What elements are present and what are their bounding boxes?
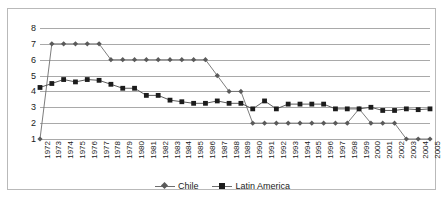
data-point-square [333,106,338,111]
x-tick-label: 1979 [126,141,134,159]
x-axis-labels: 1972197319741975197619771978197919801981… [40,141,430,177]
data-point-square [416,107,421,112]
data-point-square [97,78,102,83]
data-point-square [357,106,362,111]
x-tick-label: 2002 [398,141,406,159]
data-point-diamond [297,121,302,126]
data-point-diamond [85,41,90,46]
data-point-diamond [309,121,314,126]
data-point-diamond [262,121,267,126]
data-point-square [369,105,374,110]
data-point-diamond [49,41,54,46]
y-tick-label: 1 [31,135,36,144]
x-tick-label: 1981 [150,141,158,159]
data-point-diamond [156,57,161,62]
x-tick-label: 1984 [185,141,193,159]
data-point-square [168,98,173,103]
x-tick-label: 1991 [268,141,276,159]
legend-line-chile [155,182,175,191]
x-tick-label: 1974 [67,141,75,159]
data-point-square [73,80,78,85]
chart-figure: 12345678 1972197319741975197619771978197… [0,0,447,200]
y-tick-label: 4 [31,87,36,96]
legend-label-latin-america: Latin America [235,182,290,191]
legend-line-latin-america [212,182,232,191]
x-tick-label: 1980 [138,141,146,159]
y-tick-label: 7 [31,39,36,48]
chart-frame: 12345678 1972197319741975197619771978197… [7,8,436,190]
x-tick-label: 1987 [221,141,229,159]
data-point-square [286,102,291,107]
data-point-square [132,86,137,91]
y-tick-label: 8 [31,24,36,33]
data-point-square [392,108,397,113]
data-point-diamond [167,57,172,62]
x-tick-label: 1986 [209,141,217,159]
x-tick-label: 1998 [351,141,359,159]
data-point-diamond [333,121,338,126]
x-tick-label: 1990 [256,141,264,159]
x-tick-label: 2004 [422,141,430,159]
data-point-square [345,106,350,111]
x-tick-label: 1999 [363,141,371,159]
data-point-diamond [380,121,385,126]
x-tick-label: 1989 [244,141,252,159]
data-point-square [262,99,267,104]
x-tick-label: 1993 [292,141,300,159]
x-tick-label: 1983 [174,141,182,159]
data-point-square [321,102,326,107]
x-tick-label: 1975 [79,141,87,159]
data-point-square [380,108,385,113]
y-tick-label: 2 [31,119,36,128]
x-tick-label: 2003 [410,141,418,159]
legend-item-chile: Chile [155,182,199,191]
data-point-square [428,106,433,111]
data-point-diamond [132,57,137,62]
series-layer [40,28,430,139]
data-point-diamond [61,41,66,46]
data-point-square [404,106,409,111]
data-point-square [298,102,303,107]
data-point-square [239,101,244,106]
x-tick-label: 1973 [55,141,63,159]
data-point-square [191,101,196,106]
data-point-square [227,101,232,106]
x-tick-label: 1982 [162,141,170,159]
data-point-square [215,99,220,104]
x-tick-label: 1994 [304,141,312,159]
legend-item-latin-america: Latin America [212,182,290,191]
x-tick-label: 1972 [44,141,52,159]
data-point-square [49,81,54,86]
data-point-square [109,82,114,87]
data-point-square [309,102,314,107]
x-tick-label: 1985 [197,141,205,159]
data-point-diamond [191,57,196,62]
x-tick-label: 1992 [280,141,288,159]
data-point-square [203,101,208,106]
x-tick-label: 2005 [434,141,442,159]
data-point-square [144,93,149,98]
x-tick-label: 1978 [114,141,122,159]
data-point-square [156,93,161,98]
data-point-square [38,85,43,90]
data-point-diamond [179,57,184,62]
data-point-diamond [274,121,279,126]
data-point-diamond [73,41,78,46]
y-tick-label: 6 [31,55,36,64]
x-tick-label: 1976 [91,141,99,159]
diamond-marker-icon [161,182,168,189]
x-tick-label: 1995 [315,141,323,159]
data-point-diamond [144,57,149,62]
square-marker-icon [219,183,225,189]
legend-label-chile: Chile [178,182,199,191]
x-tick-label: 2000 [374,141,382,159]
x-tick-label: 2001 [386,141,394,159]
data-point-diamond [286,121,291,126]
x-tick-label: 1988 [233,141,241,159]
y-tick-label: 5 [31,71,36,80]
data-point-diamond [238,89,243,94]
y-tick-label: 3 [31,103,36,112]
chart-legend: Chile Latin America [8,179,437,193]
x-tick-label: 1997 [339,141,347,159]
data-point-diamond [250,121,255,126]
